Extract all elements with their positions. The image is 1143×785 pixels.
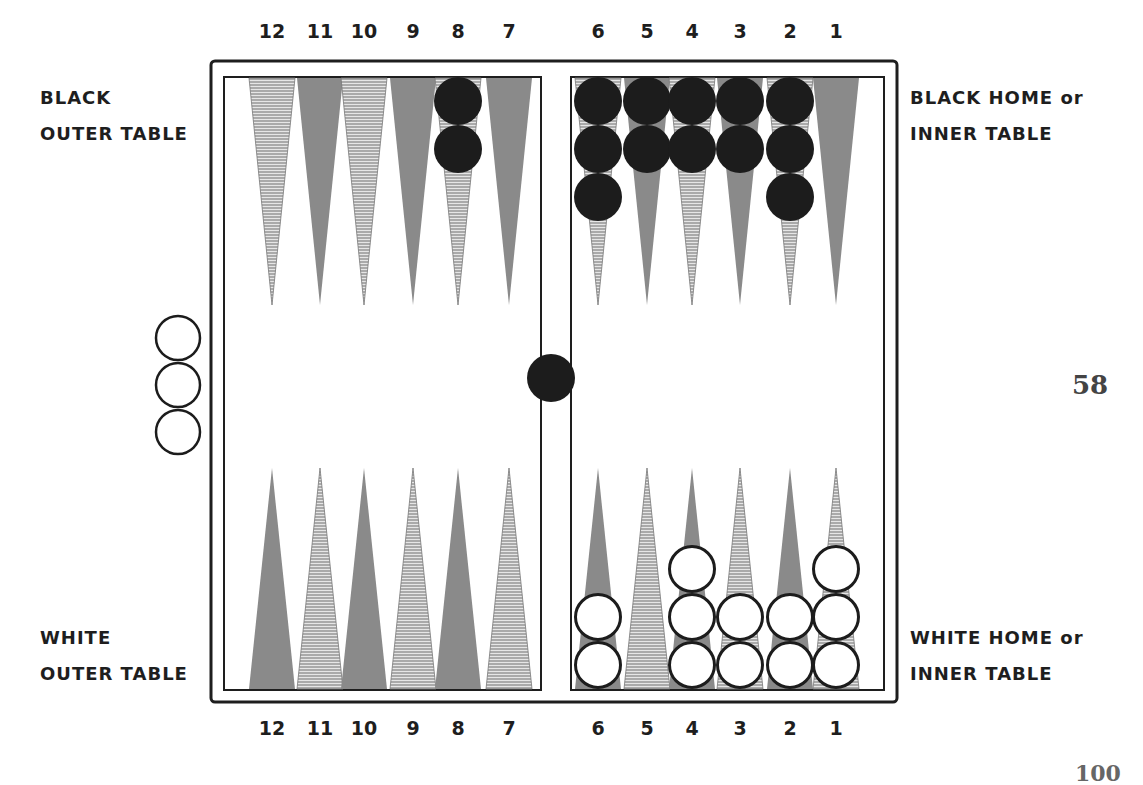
point-number-7: 7 bbox=[502, 717, 515, 739]
point-number-4: 4 bbox=[685, 20, 698, 42]
point-number-6: 6 bbox=[591, 717, 604, 739]
white-checker-point-1 bbox=[814, 547, 859, 592]
white-checker-point-4 bbox=[670, 595, 715, 640]
white-checker-off-board bbox=[156, 316, 200, 360]
black-checker-point-4 bbox=[668, 77, 716, 125]
white-checker-point-1 bbox=[814, 643, 859, 688]
label-line: WHITE HOME or bbox=[910, 620, 1084, 656]
point-number-1: 1 bbox=[829, 20, 842, 42]
point-number-8: 8 bbox=[451, 20, 464, 42]
label-white-home-table: WHITE HOME or INNER TABLE bbox=[910, 620, 1084, 692]
point-number-10: 10 bbox=[351, 20, 377, 42]
white-checker-point-4 bbox=[670, 547, 715, 592]
point-number-9: 9 bbox=[406, 20, 419, 42]
point-number-5: 5 bbox=[640, 20, 653, 42]
point-number-7: 7 bbox=[502, 20, 515, 42]
black-checker-point-8 bbox=[434, 125, 482, 173]
point-number-11: 11 bbox=[307, 717, 333, 739]
point-number-12: 12 bbox=[259, 717, 285, 739]
white-checker-point-3 bbox=[718, 643, 763, 688]
off-board-white-checkers bbox=[156, 316, 200, 454]
white-checker-off-board bbox=[156, 410, 200, 454]
point-number-12: 12 bbox=[259, 20, 285, 42]
black-checker-point-2 bbox=[766, 77, 814, 125]
white-checker-point-1 bbox=[814, 595, 859, 640]
black-checker-point-5 bbox=[623, 77, 671, 125]
label-line: INNER TABLE bbox=[910, 116, 1084, 152]
black-checker-point-2 bbox=[766, 125, 814, 173]
white-checker-point-2 bbox=[768, 595, 813, 640]
white-checker-point-3 bbox=[718, 595, 763, 640]
point-number-11: 11 bbox=[307, 20, 333, 42]
white-checker-point-4 bbox=[670, 643, 715, 688]
white-checker-point-6 bbox=[576, 643, 621, 688]
black-checker-on-bar bbox=[527, 354, 575, 402]
label-line: INNER TABLE bbox=[910, 656, 1084, 692]
page-number-fragment: 100 bbox=[1075, 760, 1121, 785]
label-line: OUTER TABLE bbox=[40, 116, 188, 152]
label-black-home-table: BLACK HOME or INNER TABLE bbox=[910, 80, 1084, 152]
black-checker-point-4 bbox=[668, 125, 716, 173]
black-checker-point-8 bbox=[434, 77, 482, 125]
label-line: BLACK bbox=[40, 80, 188, 116]
white-checker-off-board bbox=[156, 363, 200, 407]
label-line: OUTER TABLE bbox=[40, 656, 188, 692]
point-number-6: 6 bbox=[591, 20, 604, 42]
point-number-1: 1 bbox=[829, 717, 842, 739]
white-checker-point-2 bbox=[768, 643, 813, 688]
black-checker-point-3 bbox=[716, 77, 764, 125]
black-checker-point-6 bbox=[574, 77, 622, 125]
point-number-2: 2 bbox=[783, 717, 796, 739]
page-number: 58 bbox=[1072, 370, 1108, 400]
black-checker-point-5 bbox=[623, 125, 671, 173]
point-number-3: 3 bbox=[733, 717, 746, 739]
label-black-outer-table: BLACK OUTER TABLE bbox=[40, 80, 188, 152]
black-checker-point-6 bbox=[574, 125, 622, 173]
label-line: BLACK HOME or bbox=[910, 80, 1084, 116]
point-number-3: 3 bbox=[733, 20, 746, 42]
black-checker-point-3 bbox=[716, 125, 764, 173]
point-number-4: 4 bbox=[685, 717, 698, 739]
label-white-outer-table: WHITE OUTER TABLE bbox=[40, 620, 188, 692]
black-checker-point-6 bbox=[574, 173, 622, 221]
black-checker-point-2 bbox=[766, 173, 814, 221]
point-number-9: 9 bbox=[406, 717, 419, 739]
label-line: WHITE bbox=[40, 620, 188, 656]
point-number-8: 8 bbox=[451, 717, 464, 739]
white-checker-point-6 bbox=[576, 595, 621, 640]
point-number-2: 2 bbox=[783, 20, 796, 42]
point-number-10: 10 bbox=[351, 717, 377, 739]
bar-checkers bbox=[527, 354, 575, 402]
point-number-5: 5 bbox=[640, 717, 653, 739]
